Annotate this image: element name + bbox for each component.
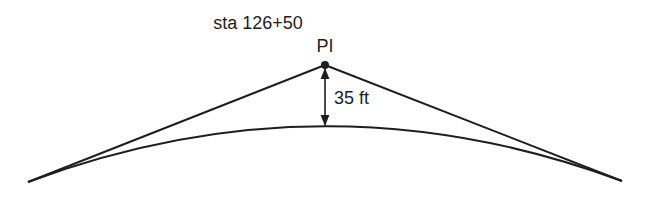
external-distance-label: 35 ft bbox=[334, 88, 369, 108]
pi-label: PI bbox=[316, 36, 333, 56]
crest-curve-diagram: sta 126+50 PI 35 ft bbox=[0, 0, 652, 209]
pi-point bbox=[321, 61, 329, 69]
vertical-curve bbox=[28, 126, 622, 182]
forward-tangent-line bbox=[325, 65, 622, 181]
back-tangent-line bbox=[28, 65, 325, 182]
station-label: sta 126+50 bbox=[213, 13, 303, 33]
